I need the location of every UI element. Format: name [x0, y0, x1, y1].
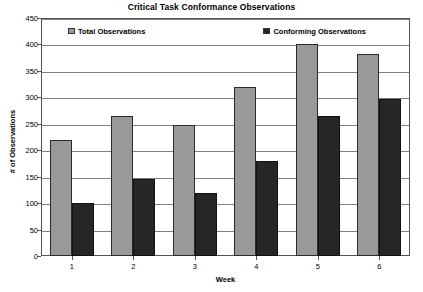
y-tick-label: 350 — [8, 66, 38, 75]
bar-conforming — [379, 99, 401, 256]
x-tick-label: 4 — [236, 262, 276, 271]
bar-group — [164, 18, 226, 256]
y-tick-label: 0 — [8, 252, 38, 261]
x-tick-label: 3 — [175, 262, 215, 271]
bar-total — [173, 125, 195, 256]
bar-group — [226, 18, 288, 256]
bar-conforming — [318, 116, 340, 256]
x-tick-label: 5 — [298, 262, 338, 271]
x-tick-mark — [318, 256, 319, 260]
bar-group — [287, 18, 349, 256]
x-tick-mark — [195, 256, 196, 260]
bar-conforming — [256, 161, 278, 256]
bar-total — [111, 116, 133, 256]
bar-total — [50, 140, 72, 256]
bar-conforming — [195, 193, 217, 256]
bars-layer — [41, 18, 410, 256]
bar-group — [349, 18, 411, 256]
y-tick-label: 100 — [8, 199, 38, 208]
bar-total — [296, 44, 318, 256]
bar-conforming — [72, 203, 94, 256]
bar-group — [41, 18, 103, 256]
bar-conforming — [133, 179, 155, 256]
chart-container: Critical Task Conformance Observations T… — [0, 0, 423, 292]
x-tick-label: 6 — [359, 262, 399, 271]
y-axis-title: # of Observations — [8, 92, 17, 192]
y-tick-label: 400 — [8, 40, 38, 49]
bar-group — [103, 18, 165, 256]
x-tick-label: 2 — [113, 262, 153, 271]
x-tick-mark — [256, 256, 257, 260]
x-tick-label: 1 — [52, 262, 92, 271]
y-tick-label: 450 — [8, 14, 38, 23]
y-tick-label: 50 — [8, 225, 38, 234]
y-tick-mark — [37, 256, 41, 257]
x-axis-title: Week — [41, 275, 410, 284]
chart-title: Critical Task Conformance Observations — [0, 2, 423, 12]
bar-total — [357, 54, 379, 256]
x-tick-mark — [133, 256, 134, 260]
bar-total — [234, 87, 256, 256]
x-tick-mark — [379, 256, 380, 260]
x-tick-mark — [72, 256, 73, 260]
